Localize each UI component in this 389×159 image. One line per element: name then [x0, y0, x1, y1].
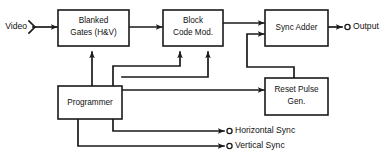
- terminal-horizontal-sync[interactable]: Horizontal Sync: [227, 125, 296, 135]
- block-blanked-gates-label-line2: Gates (H&V): [70, 28, 117, 37]
- wire-programmer-to-block-code-mod-left: [113, 52, 180, 86]
- terminal-horizontal-sync-label: Horizontal Sync: [235, 125, 296, 135]
- block-blanked-gates-label-line1: Blanked: [79, 16, 109, 25]
- block-reset-pulse-gen-label-line1: Reset Pulse: [274, 85, 319, 94]
- block-diagram-canvas: Blanked Gates (H&V) Block Code Mod. Sync…: [0, 0, 389, 159]
- wire-programmer-to-horizontal-sync: [113, 119, 224, 131]
- diagram-svg: Blanked Gates (H&V) Block Code Mod. Sync…: [0, 0, 389, 159]
- wire-programmer-to-block-code-mod-right: [122, 52, 208, 77]
- block-block-code-mod[interactable]: Block Code Mod.: [163, 10, 223, 46]
- terminal-vertical-sync-label: Vertical Sync: [235, 140, 285, 150]
- block-block-code-mod-label-line2: Code Mod.: [173, 28, 213, 37]
- block-reset-pulse-gen[interactable]: Reset Pulse Gen.: [265, 78, 328, 115]
- block-sync-adder[interactable]: Sync Adder: [265, 10, 328, 46]
- wire-programmer-to-vertical-sync: [78, 119, 224, 146]
- terminal-vertical-sync[interactable]: Vertical Sync: [227, 140, 285, 150]
- block-blanked-gates[interactable]: Blanked Gates (H&V): [58, 10, 129, 46]
- block-programmer[interactable]: Programmer: [58, 86, 122, 119]
- terminal-output-label: Output: [353, 21, 379, 31]
- block-reset-pulse-gen-label-line2: Gen.: [288, 97, 306, 106]
- video-source-tick: [29, 21, 35, 33]
- block-block-code-mod-label-line1: Block: [183, 16, 204, 25]
- terminal-output[interactable]: Output: [345, 21, 380, 31]
- block-sync-adder-label-line1: Sync Adder: [276, 23, 318, 32]
- block-programmer-label-line1: Programmer: [67, 98, 113, 107]
- terminal-video-input-label: Video: [5, 21, 27, 31]
- terminal-video-input[interactable]: Video: [5, 21, 27, 31]
